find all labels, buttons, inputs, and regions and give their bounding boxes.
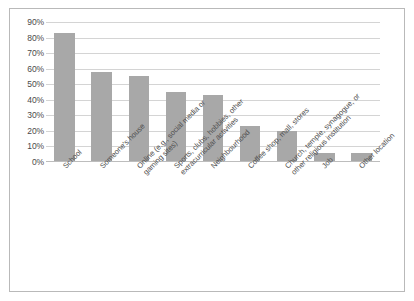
- y-axis-tick-label: 50%: [27, 79, 44, 89]
- y-axis-tick-label: 0%: [32, 157, 44, 167]
- y-axis-tick-label: 20%: [27, 126, 44, 136]
- y-axis-tick-label: 30%: [27, 110, 44, 120]
- bar: [129, 76, 149, 162]
- y-axis-tick-label: 10%: [27, 141, 44, 151]
- bar-slot: [91, 22, 111, 162]
- y-axis: 0%10%20%30%40%50%60%70%80%90%: [12, 22, 44, 162]
- bar-slot: [54, 22, 74, 162]
- bar: [54, 33, 74, 162]
- y-axis-tick-label: 80%: [27, 33, 44, 43]
- x-axis-category-labels: SchoolSomeone's houseOnline (e.g., socia…: [46, 164, 380, 288]
- y-axis-tick-label: 60%: [27, 64, 44, 74]
- y-axis-tick-label: 90%: [27, 17, 44, 27]
- y-axis-tick-label: 70%: [27, 48, 44, 58]
- bar-chart-figure: 0%10%20%30%40%50%60%70%80%90% SchoolSome…: [0, 0, 414, 301]
- bar: [91, 72, 111, 162]
- y-axis-tick-label: 40%: [27, 95, 44, 105]
